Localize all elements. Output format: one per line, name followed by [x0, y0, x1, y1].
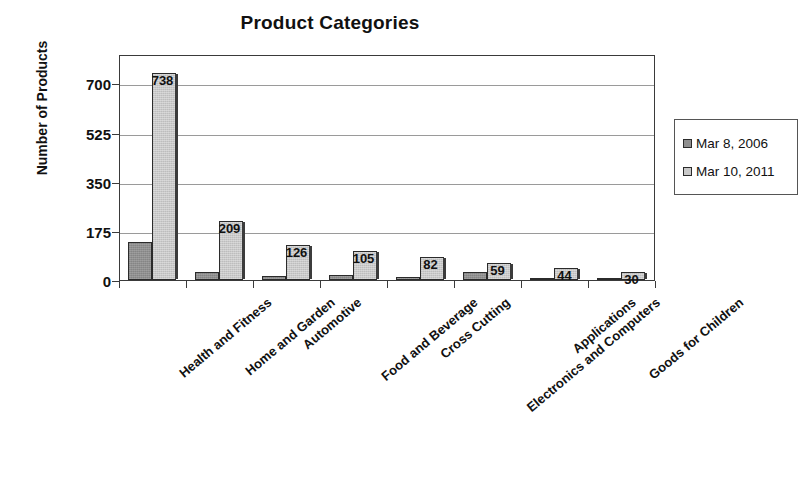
y-axis-tick-mark — [112, 134, 119, 135]
y-axis-tick-label: 0 — [55, 273, 111, 290]
bar-group — [530, 56, 578, 280]
x-axis-tick-mark — [253, 281, 254, 288]
x-axis-tick-mark — [454, 281, 455, 288]
y-axis-title: Number of Products — [34, 8, 50, 208]
x-axis-tick-mark — [521, 281, 522, 288]
bar-value-label: 209 — [219, 221, 241, 236]
bar-value-label: 738 — [152, 73, 174, 88]
bar-value-label: 44 — [557, 268, 571, 283]
bar-0[interactable] — [530, 278, 554, 280]
bar-0[interactable] — [128, 242, 152, 280]
bar-1[interactable] — [152, 73, 176, 280]
legend-item[interactable]: Mar 8, 2006 — [683, 129, 791, 157]
bar-0[interactable] — [463, 272, 487, 280]
x-axis-tick-mark — [119, 281, 120, 288]
y-axis-tick-mark — [112, 281, 119, 282]
legend-item-label: Mar 10, 2011 — [696, 164, 775, 179]
y-axis-tick-label: 350 — [55, 174, 111, 191]
legend-item-label: Mar 8, 2006 — [696, 136, 768, 151]
y-axis-tick-label: 175 — [55, 223, 111, 240]
y-axis-tick-label: 525 — [55, 125, 111, 142]
bar-0[interactable] — [262, 276, 286, 280]
plot-area — [119, 55, 655, 281]
bar-value-label: 126 — [286, 245, 308, 260]
y-axis-tick-mark — [112, 84, 119, 85]
bar-group — [396, 56, 444, 280]
bar-value-label: 30 — [624, 272, 638, 287]
bar-group — [597, 56, 645, 280]
bar-0[interactable] — [396, 277, 420, 280]
y-axis-tick-mark — [112, 232, 119, 233]
product-categories-bar-chart: Product Categories Number of Products 01… — [0, 0, 807, 491]
bar-group — [329, 56, 377, 280]
legend-swatch-icon — [683, 139, 692, 148]
x-axis-tick-mark — [387, 281, 388, 288]
x-axis-tick-mark — [186, 281, 187, 288]
x-axis-tick-mark — [320, 281, 321, 288]
bar-value-label: 105 — [353, 251, 375, 266]
chart-legend: Mar 8, 2006Mar 10, 2011 — [674, 119, 798, 195]
x-axis-category-label: Electronics and Computers — [524, 295, 663, 415]
bar-value-label: 59 — [490, 263, 504, 278]
legend-swatch-icon — [683, 167, 692, 176]
bar-group — [463, 56, 511, 280]
x-axis-tick-mark — [588, 281, 589, 288]
legend-item[interactable]: Mar 10, 2011 — [683, 157, 791, 185]
x-axis-tick-mark — [655, 281, 656, 288]
bar-value-label: 82 — [423, 257, 437, 272]
chart-title: Product Categories — [0, 12, 660, 34]
bar-group — [128, 56, 176, 280]
y-axis-tick-label: 700 — [55, 76, 111, 93]
bar-0[interactable] — [597, 278, 621, 280]
bar-0[interactable] — [195, 272, 219, 280]
y-axis-tick-mark — [112, 183, 119, 184]
bar-group — [195, 56, 243, 280]
bar-0[interactable] — [329, 275, 353, 280]
